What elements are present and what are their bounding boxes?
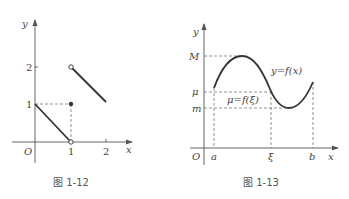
x-tick-xi: ξ [268, 151, 274, 162]
y-tick-2: 2 [26, 62, 32, 73]
y-tick-mu: μ [192, 86, 199, 97]
open-point-1-0 [69, 140, 73, 144]
segment-2 [73, 69, 107, 103]
y-tick-m: m [192, 103, 201, 114]
x-axis-label: x [328, 151, 334, 162]
x-tick-1: 1 [68, 146, 74, 157]
x-tick-2: 2 [103, 146, 109, 157]
curve-label: y=f(x) [270, 65, 302, 76]
x-tick-a: a [211, 151, 217, 162]
open-point-1-2 [69, 65, 73, 69]
y-tick-1: 1 [26, 99, 32, 110]
x-tick-b: b [309, 151, 315, 162]
caption-1-13: 图 1-13 [243, 177, 279, 188]
figure-1-13: y x O a ξ b M μ m y=f(x) μ=f(ξ) 图 1-13 [188, 24, 338, 188]
figures-canvas: y x O 1 2 1 2 图 1-12 y x O a ξ b M μ m [0, 0, 349, 199]
y-axis-label: y [192, 26, 199, 37]
origin-label: O [24, 146, 32, 157]
figure-1-12: y x O 1 2 1 2 图 1-12 [12, 18, 132, 188]
x-axis-label: x [126, 144, 132, 155]
y-axis-label: y [21, 18, 28, 29]
y-tick-M: M [188, 51, 200, 62]
mu-annotation: μ=f(ξ) [227, 94, 259, 105]
segment-1 [35, 104, 70, 141]
filled-point-1-1 [69, 102, 73, 106]
origin-label: O [192, 151, 200, 162]
caption-1-12: 图 1-12 [53, 177, 89, 188]
